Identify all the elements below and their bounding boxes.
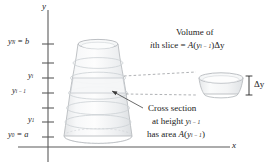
tick-label-y1: y1 bbox=[28, 116, 34, 124]
magnified-slice-base-front bbox=[204, 94, 238, 98]
cross-section-line2: at height yi − 1 bbox=[152, 117, 200, 126]
volume-slice-text: th slice = bbox=[153, 40, 188, 50]
tick-label-yim1: yi − 1 bbox=[12, 87, 26, 95]
volume-annotation-line1: Volume of bbox=[176, 28, 214, 37]
tick-label-yim1-sub: i − 1 bbox=[16, 88, 26, 94]
x-axis-label: x bbox=[232, 141, 236, 150]
volume-delta-y: Δy bbox=[214, 40, 224, 50]
magnifier-leader-lines bbox=[124, 72, 196, 95]
volume-annotation-line2: ith slice = A(yi − 1)Δy bbox=[150, 41, 225, 50]
tick-label-yi-sub: i bbox=[32, 73, 33, 79]
delta-y-label: Δy bbox=[254, 80, 264, 89]
cross-section-has-area: has area bbox=[147, 129, 178, 139]
solid-of-revolution bbox=[64, 39, 132, 143]
tick-label-yN-tail: = b bbox=[15, 37, 29, 46]
cross-section-line3: has area A(yi − 1) bbox=[147, 130, 205, 139]
tick-label-yN: yN = b bbox=[8, 38, 29, 46]
tick-label-y0: y0 = a bbox=[8, 131, 28, 139]
cross-section-at-height: at height bbox=[152, 116, 186, 126]
ith-slice-highlight bbox=[71, 78, 126, 93]
leader-line-top bbox=[124, 72, 196, 76]
cross-section-paren-close: ) bbox=[202, 129, 205, 139]
solid-top-inner-ellipse bbox=[82, 42, 115, 49]
cross-section-area-sub: i − 1 bbox=[191, 132, 202, 138]
cross-section-line1: Cross section bbox=[148, 104, 196, 113]
volume-arg-sub: i − 1 bbox=[200, 43, 211, 49]
y-axis-label: y bbox=[42, 2, 46, 11]
tick-label-y0-tail: = a bbox=[14, 130, 28, 139]
delta-y-measure bbox=[246, 76, 253, 95]
magnified-slice bbox=[199, 73, 243, 98]
tick-label-y1-sub: 1 bbox=[32, 117, 35, 123]
tick-label-yi: yi bbox=[28, 72, 33, 80]
solid-base-front bbox=[64, 136, 132, 143]
magnified-slice-top-inner bbox=[203, 76, 239, 83]
cross-section-height-sub: i − 1 bbox=[190, 119, 201, 125]
volume-by-slicing-figure: y x yN = b yi yi − 1 y1 y0 = a Volume of… bbox=[0, 0, 276, 168]
leader-line-bottom bbox=[126, 94, 196, 95]
